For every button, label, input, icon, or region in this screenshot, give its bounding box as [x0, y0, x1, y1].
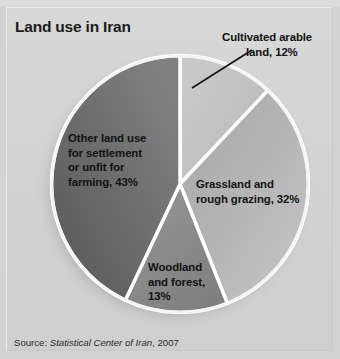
- slice-label-line: 13%: [148, 289, 205, 304]
- source-prefix: Source:: [14, 337, 47, 348]
- land-use-pie-figure: Land use in Iran: [0, 0, 340, 359]
- slice-label-line: rough grazing, 32%: [196, 192, 299, 207]
- source-year: , 2007: [152, 337, 179, 348]
- source-publisher: Statistical Center of Iran: [50, 337, 152, 348]
- slice-label-line: Other land use: [68, 131, 146, 146]
- slice-label-line: farming, 43%: [68, 175, 146, 190]
- slice-label-line: and forest,: [148, 275, 205, 290]
- source-note: Source: Statistical Center of Iran, 2007: [14, 337, 179, 348]
- slice-label-line: Grassland and: [196, 177, 299, 192]
- slice-label-other-land-use: Other land use for settlement or unfit f…: [68, 131, 146, 189]
- slice-label-line: Woodland: [148, 260, 205, 275]
- slice-label-woodland: Woodland and forest, 13%: [148, 260, 205, 304]
- slice-label-line: or unfit for: [68, 160, 146, 175]
- slice-label-line: for settlement: [68, 146, 146, 161]
- slice-label-cultivated-arable: Cultivated arable land, 12%: [222, 30, 312, 59]
- slice-label-grassland: Grassland and rough grazing, 32%: [196, 177, 299, 206]
- slice-label-line: Cultivated arable: [222, 30, 312, 45]
- page-title: Land use in Iran: [15, 18, 131, 36]
- slice-label-line: land, 12%: [222, 45, 312, 60]
